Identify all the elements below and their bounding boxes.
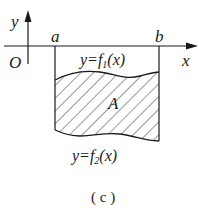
y-axis-label: y xyxy=(9,12,19,31)
figure-caption: ( c ) xyxy=(91,189,115,206)
x-axis-label: x xyxy=(181,51,190,70)
point-a-label: a xyxy=(51,27,60,46)
upper-curve-label: y=f1(x) xyxy=(78,51,125,70)
region-label: A xyxy=(107,94,119,113)
origin-label: O xyxy=(9,53,21,72)
area-between-curves-diagram: y x O a b y=f1(x) A y=f2(x) ( c ) xyxy=(0,0,199,210)
y-axis xyxy=(25,10,32,64)
lower-curve-label: y=f2(x) xyxy=(70,147,117,166)
point-b-label: b xyxy=(155,27,164,46)
y-axis-arrow-icon xyxy=(25,10,32,22)
x-axis xyxy=(4,43,198,50)
x-axis-arrow-icon xyxy=(186,43,198,50)
